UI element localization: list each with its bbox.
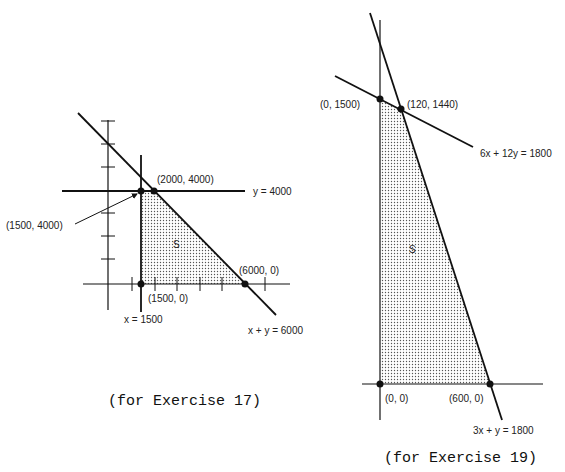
constraint-label: x + y = 6000 <box>248 325 303 336</box>
constraint-label: 6x + 12y = 1800 <box>480 148 552 159</box>
caption: (for Exercise 17) <box>108 393 261 410</box>
feasible-region-s <box>141 191 245 284</box>
vertex-dot <box>377 96 384 103</box>
figure-exercise-19: (0, 1500) (120, 1440) (0, 0) (600, 0) 6x… <box>320 13 552 467</box>
region-label: S <box>409 244 416 255</box>
vertex-dot <box>377 381 384 388</box>
vertex-dot <box>138 188 145 195</box>
vertex-dot <box>398 106 405 113</box>
vertex-label: (120, 1440) <box>407 99 458 110</box>
vertex-dot <box>138 281 145 288</box>
figure-exercise-17: (2000, 4000) (1500, 4000) (6000, 0) (150… <box>6 113 303 410</box>
constraint-label: 3x + y = 1800 <box>473 425 534 436</box>
pointer-arrow <box>75 194 137 224</box>
feasible-region-s <box>380 99 490 384</box>
caption: (for Exercise 19) <box>384 450 537 467</box>
vertex-label: (2000, 4000) <box>157 174 214 185</box>
region-label: S <box>173 239 180 250</box>
constraint-label: x = 1500 <box>124 314 163 325</box>
vertex-dot <box>151 188 158 195</box>
vertex-label: (1500, 4000) <box>6 220 63 231</box>
vertex-label: (0, 0) <box>385 393 408 404</box>
vertex-label: (600, 0) <box>449 393 483 404</box>
vertex-label: (6000, 0) <box>239 265 279 276</box>
vertex-label: (0, 1500) <box>320 99 360 110</box>
vertex-label: (1500, 0) <box>148 293 188 304</box>
diagram-canvas: (2000, 4000) (1500, 4000) (6000, 0) (150… <box>0 0 565 472</box>
constraint-label: y = 4000 <box>253 186 292 197</box>
vertex-dot <box>487 381 494 388</box>
vertex-dot <box>242 281 249 288</box>
